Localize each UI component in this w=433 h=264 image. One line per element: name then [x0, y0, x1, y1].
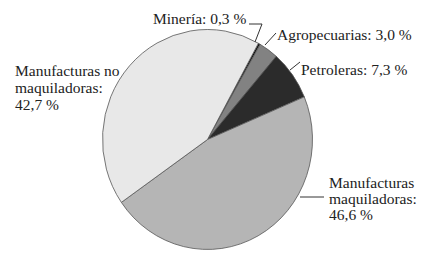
label-maquiladoras-line2: maquiladoras: — [329, 190, 417, 207]
label-petroleras: Petroleras: 7,3 % — [301, 61, 407, 78]
label-no-maquiladoras-line3: 42,7 % — [15, 96, 59, 113]
label-no-maquiladoras-line2: maquiladoras: — [15, 79, 103, 96]
label-mineria: Minería: 0,3 % — [153, 10, 246, 27]
pie-chart: Minería: 0,3 % Agropecuarias: 3,0 % Petr… — [0, 0, 433, 264]
label-agropecuarias: Agropecuarias: 3,0 % — [277, 26, 412, 43]
label-maquiladoras-line3: 46,6 % — [329, 206, 373, 223]
label-maquiladoras-line1: Manufacturas — [329, 174, 414, 191]
leader-line-agropecuarias — [265, 33, 276, 45]
label-no-maquiladoras-line1: Manufacturas no — [15, 62, 120, 79]
leader-line-petroleras — [290, 62, 300, 70]
pie-slices — [103, 29, 313, 249]
